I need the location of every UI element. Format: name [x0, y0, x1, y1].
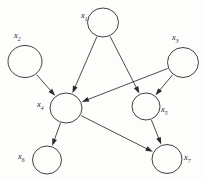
node-circle-x2[interactable]: [8, 46, 42, 78]
edge-x3-to-x4: [82, 68, 168, 101]
edge-line-x4-x7: [81, 116, 148, 150]
node-circle-x5[interactable]: [132, 93, 160, 120]
edge-line-x4-x6: [54, 123, 60, 140]
node-x6[interactable]: x6: [17, 146, 62, 174]
node-circle-x3[interactable]: [168, 48, 199, 78]
edge-line-x1-x4: [75, 37, 97, 88]
node-circle-x4[interactable]: [50, 93, 82, 123]
node-label-x7: x7: [183, 152, 191, 164]
node-x3[interactable]: x3: [168, 32, 199, 78]
arrow-head-x1-x4: [72, 86, 77, 94]
arrow-head-x5-x7: [156, 137, 161, 145]
edge-line-x5-x7: [151, 120, 159, 139]
arrow-head-x3-x4: [82, 97, 90, 102]
edge-x3-to-x5: [155, 75, 172, 95]
node-label-x2: x2: [13, 30, 21, 42]
edge-x4-to-x6: [52, 123, 60, 146]
node-label-x6: x6: [17, 151, 25, 163]
edge-x1-to-x4: [72, 37, 96, 93]
node-label-x1: x1: [80, 10, 88, 22]
node-x2[interactable]: x2: [8, 30, 42, 78]
arrow-head-x4-x6: [52, 138, 57, 146]
edge-x5-to-x7: [151, 120, 161, 145]
arrow-head-x1-x5: [134, 86, 140, 94]
node-layer: x1 x2 x3 x4 x5 x6 x7: [8, 8, 199, 174]
node-label-x3: x3: [171, 32, 179, 44]
edge-x4-to-x7: [81, 116, 153, 152]
node-circle-x6[interactable]: [33, 146, 62, 174]
node-x1[interactable]: x1: [80, 8, 119, 37]
node-circle-x1[interactable]: [88, 8, 119, 37]
node-label-x5: x5: [160, 104, 168, 116]
node-label-x4: x4: [36, 99, 44, 111]
edge-x2-to-x4: [37, 75, 56, 96]
arrow-head-x4-x7: [145, 146, 153, 151]
edge-line-x1-x5: [110, 36, 137, 88]
node-x4[interactable]: x4: [36, 93, 82, 123]
node-x7[interactable]: x7: [152, 145, 191, 174]
edge-line-x3-x5: [159, 75, 172, 91]
node-x5[interactable]: x5: [132, 93, 168, 120]
edge-line-x2-x4: [37, 75, 52, 92]
node-circle-x7[interactable]: [152, 145, 182, 174]
dag-diagram: x1 x2 x3 x4 x5 x6 x7: [0, 0, 205, 180]
